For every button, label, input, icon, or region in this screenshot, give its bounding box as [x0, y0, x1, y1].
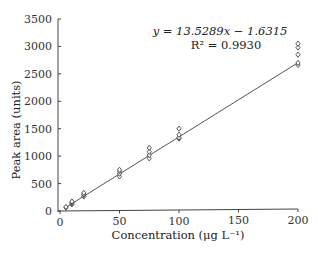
- data-points: [64, 41, 300, 210]
- x-axis: 050100150200: [57, 209, 309, 229]
- y-tick-label: 2000: [24, 95, 52, 108]
- y-tick-label: 1500: [24, 123, 52, 136]
- y-axis: 0500100015002000250030003500: [24, 13, 61, 218]
- x-tick-label: 200: [288, 214, 309, 227]
- x-tick-label: 150: [228, 214, 249, 227]
- y-tick-label: 3000: [24, 40, 52, 53]
- r-squared: R² = 0.9930: [191, 38, 261, 52]
- regression-equation: y = 13.5289x − 1.6315: [152, 24, 288, 38]
- regression-line: [66, 63, 298, 208]
- y-tick-label: 500: [31, 178, 52, 191]
- calibration-chart: 0500100015002000250030003500 05010015020…: [0, 0, 318, 253]
- y-tick-label: 3500: [24, 13, 52, 26]
- x-tick-label: 50: [113, 215, 127, 228]
- y-axis-label: Peak area (units): [9, 80, 23, 179]
- x-tick-label: 0: [57, 216, 64, 229]
- y-tick-label: 2500: [24, 68, 52, 81]
- y-tick-label: 1000: [24, 150, 52, 163]
- x-tick-label: 100: [169, 215, 190, 228]
- data-point-diamond-icon: [296, 41, 300, 46]
- x-axis-label: Concentration (μg L⁻¹): [112, 228, 245, 242]
- data-point-diamond-icon: [147, 145, 151, 150]
- data-point-diamond-icon: [296, 52, 300, 57]
- data-point-diamond-icon: [177, 126, 181, 131]
- y-tick-label: 0: [45, 205, 52, 218]
